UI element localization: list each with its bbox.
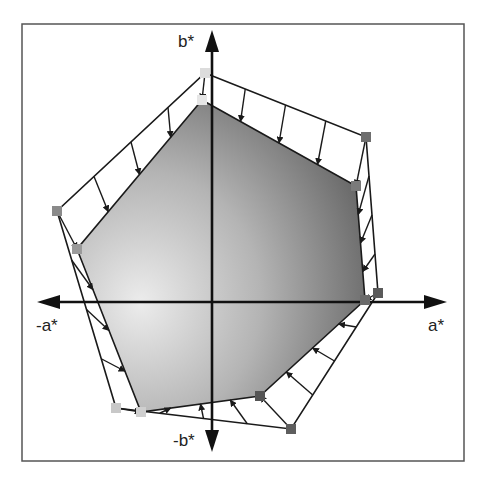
outer-vertex-marker — [373, 288, 383, 298]
neg-a-axis-arrow-icon — [37, 295, 60, 309]
compression-arrow — [363, 254, 375, 272]
compression-arrow — [339, 324, 357, 327]
compression-arrow — [201, 404, 204, 419]
inner-vertex-marker — [136, 407, 146, 417]
outer-vertex-marker — [286, 424, 296, 434]
compression-arrow — [241, 89, 246, 122]
compression-arrow — [356, 137, 366, 186]
compression-arrow — [361, 215, 373, 243]
outer-vertex-marker — [200, 68, 210, 78]
compression-arrow — [318, 121, 326, 165]
a-axis-arrow-icon — [424, 295, 447, 309]
neg-b-axis-label: -b* — [173, 431, 195, 450]
inner-vertex-marker — [72, 244, 82, 254]
inner-vertex-marker — [197, 95, 207, 105]
gamut-diagram: b* -a* a* -b* — [0, 0, 478, 479]
inner-vertex-marker — [351, 181, 361, 191]
compression-arrow — [313, 348, 335, 361]
compression-arrow — [168, 108, 171, 138]
neg-a-axis-label: -a* — [36, 316, 58, 335]
b-axis-label: b* — [178, 32, 194, 51]
compression-arrow — [230, 400, 247, 424]
a-axis-label: a* — [428, 316, 444, 335]
neg-b-axis-arrow-icon — [205, 430, 219, 452]
compression-arrow — [279, 105, 286, 143]
compression-arrow — [131, 142, 140, 175]
outer-vertex-marker — [52, 206, 62, 216]
b-axis-arrow-icon — [205, 30, 219, 52]
outer-vertex-marker — [111, 403, 121, 413]
outer-vertex-marker — [361, 132, 371, 142]
compression-arrow — [286, 372, 313, 395]
inner-vertex-marker — [255, 391, 265, 401]
inner-vertex-marker — [360, 295, 370, 305]
inner-gamut-polygon — [77, 100, 365, 412]
compression-arrow — [94, 177, 108, 212]
